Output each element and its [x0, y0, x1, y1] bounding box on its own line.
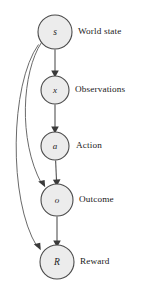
node-o[interactable]: o [41, 184, 73, 216]
label-observations: Observations [75, 85, 125, 94]
node-a-letter: a [53, 141, 58, 151]
node-s-letter: s [53, 27, 57, 37]
graph-svg: s x a o R [0, 0, 144, 293]
arrowhead-s-to-R [34, 243, 41, 250]
edge-s-to-o [25, 43, 41, 184]
node-s[interactable]: s [38, 15, 72, 49]
node-x-letter: x [52, 85, 57, 95]
label-reward: Reward [80, 257, 109, 266]
arrowhead-s-to-o [38, 180, 45, 187]
label-outcome: Outcome [79, 195, 114, 204]
edge-s-to-R [16, 45, 38, 247]
label-world-state: World state [78, 27, 122, 36]
node-x[interactable]: x [41, 76, 69, 104]
node-R-letter: R [53, 257, 60, 267]
edge-a-to-o [56, 161, 57, 183]
node-o-letter: o [55, 195, 60, 205]
label-action: Action [76, 141, 102, 150]
diagram-canvas: s x a o R World state Observations Actio… [0, 0, 144, 293]
node-R[interactable]: R [40, 245, 74, 279]
node-a[interactable]: a [41, 132, 69, 160]
